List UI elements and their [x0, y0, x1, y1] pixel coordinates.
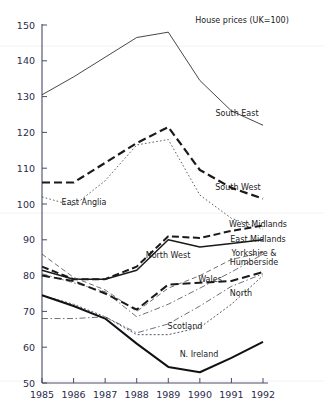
series-label: South West [215, 183, 260, 192]
x-tick-label: 1988 [125, 389, 149, 400]
series-line [42, 276, 263, 335]
series-annotations: South EastSouth WestEast AngliaWest Midl… [62, 109, 287, 359]
series-label: North West [146, 251, 191, 260]
series-label: South East [215, 109, 258, 118]
series-label: Scotland [168, 322, 203, 331]
x-tick-label: 1985 [30, 389, 54, 400]
y-tick-label: 120 [17, 127, 35, 138]
x-tick-label: 1990 [188, 389, 212, 400]
series-label: N. Ireland [180, 350, 219, 359]
background-bands [0, 46, 324, 381]
y-tick-label: 100 [17, 199, 35, 210]
series-label: Humberside [230, 258, 279, 267]
y-tick-label: 140 [17, 55, 35, 66]
x-tick-label: 1986 [61, 389, 85, 400]
x-tick-label: 1987 [93, 389, 117, 400]
series-label: East Midlands [230, 235, 285, 244]
y-tick-label: 80 [23, 270, 35, 281]
y-tick-label: 90 [23, 234, 35, 245]
y-tick-label: 130 [17, 91, 35, 102]
chart-canvas: 5060708090100110120130140150 19851986198… [0, 0, 324, 419]
y-tick-label: 70 [23, 306, 35, 317]
x-tick-label: 1991 [219, 389, 243, 400]
chart-title: House prices (UK=100) [195, 16, 289, 25]
y-tick-label: 110 [17, 163, 35, 174]
series-label: East Anglia [62, 198, 107, 207]
y-tick-label: 50 [23, 378, 35, 389]
x-tick-label: 1992 [251, 389, 275, 400]
house-prices-chart: 5060708090100110120130140150 19851986198… [0, 0, 324, 419]
series-line [42, 295, 263, 372]
series-label: West Midlands [229, 220, 287, 229]
series-label: Wales [198, 275, 222, 284]
series-label: Yorkshire & [231, 249, 277, 258]
series-line [42, 274, 263, 333]
series-label: North [230, 289, 252, 298]
y-tick-label: 150 [17, 20, 35, 31]
y-tick-label: 60 [23, 342, 35, 353]
x-tick-label: 1989 [156, 389, 180, 400]
